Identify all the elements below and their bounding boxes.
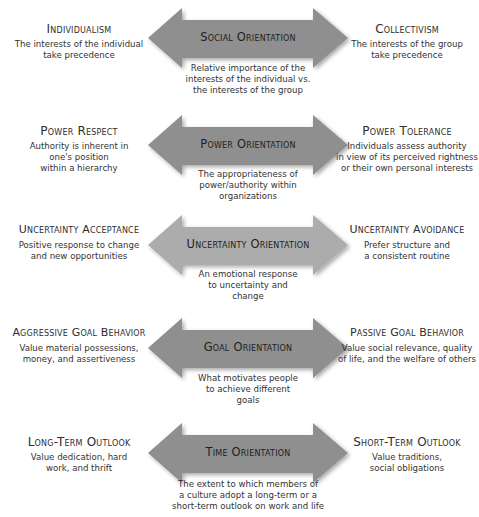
left-pole: Long-Term Outlook Value dedication, hard… bbox=[0, 435, 158, 474]
dimension-title: Social Orientation bbox=[145, 30, 351, 44]
right-pole-title: Collectivism bbox=[335, 22, 479, 36]
right-pole: Short-Term Outlook Value traditions, soc… bbox=[335, 435, 479, 474]
right-pole-description: Value social relevance, quality of life,… bbox=[335, 343, 479, 365]
left-pole-title: Individualism bbox=[0, 22, 158, 36]
dimension-title: Time Orientation bbox=[145, 445, 351, 459]
right-pole: Power Tolerance Individuals assess autho… bbox=[335, 124, 479, 174]
left-pole: Uncertainty Acceptance Positive response… bbox=[0, 223, 158, 262]
left-pole-description: Authority is inherent in one's position … bbox=[0, 141, 158, 174]
right-pole: Collectivism The interests of the group … bbox=[335, 22, 479, 61]
right-pole-title: Power Tolerance bbox=[335, 124, 479, 138]
right-pole-title: Passive Goal Behavior bbox=[335, 326, 479, 340]
right-pole-title: Uncertainty Avoidance bbox=[335, 223, 479, 237]
left-pole-title: Long-Term Outlook bbox=[0, 435, 158, 449]
left-pole-title: Uncertainty Acceptance bbox=[0, 223, 158, 237]
left-pole: Power Respect Authority is inherent in o… bbox=[0, 124, 158, 174]
dimension-row-uncertainty: Uncertainty Orientation An emotional res… bbox=[0, 210, 479, 315]
dimension-description: The extent to which members of a culture… bbox=[162, 479, 334, 512]
left-pole: Individualism The interests of the indiv… bbox=[0, 22, 158, 61]
right-pole-description: The interests of the group take preceden… bbox=[335, 39, 479, 61]
right-pole: Uncertainty Avoidance Prefer structure a… bbox=[335, 223, 479, 262]
left-pole-description: Positive response to change and new oppo… bbox=[0, 240, 158, 262]
left-pole-title: Aggressive Goal Behavior bbox=[0, 326, 158, 340]
right-pole-description: Individuals assess authority in view of … bbox=[335, 141, 479, 174]
right-pole: Passive Goal Behavior Value social relev… bbox=[335, 326, 479, 365]
right-pole-description: Value traditions, social obligations bbox=[335, 452, 479, 474]
dimension-row-goal: Goal Orientation What motivates people t… bbox=[0, 313, 479, 418]
dimension-description: The appropriateness of power/authority w… bbox=[172, 169, 324, 202]
dimension-description: What motivates people to achieve differe… bbox=[172, 373, 324, 406]
left-pole: Aggressive Goal Behavior Value material … bbox=[0, 326, 158, 365]
dimension-title: Uncertainty Orientation bbox=[145, 237, 351, 251]
dimension-description: An emotional response to uncertainty and… bbox=[172, 269, 324, 302]
dimension-description: Relative importance of the interests of … bbox=[172, 63, 324, 96]
dimension-row-time: Time Orientation The extent to which mem… bbox=[0, 418, 479, 517]
left-pole-description: Value material possessions, money, and a… bbox=[0, 343, 158, 365]
dimension-title: Power Orientation bbox=[145, 137, 351, 151]
dimension-row-social: Social Orientation Relative importance o… bbox=[0, 0, 479, 112]
dimension-title: Goal Orientation bbox=[145, 340, 351, 354]
left-pole-description: Value dedication, hard work, and thrift bbox=[0, 452, 158, 474]
dimension-row-power: Power Orientation The appropriateness of… bbox=[0, 110, 479, 218]
right-pole-title: Short-Term Outlook bbox=[335, 435, 479, 449]
right-pole-description: Prefer structure and a consistent routin… bbox=[335, 240, 479, 262]
left-pole-description: The interests of the individual take pre… bbox=[0, 39, 158, 61]
left-pole-title: Power Respect bbox=[0, 124, 158, 138]
